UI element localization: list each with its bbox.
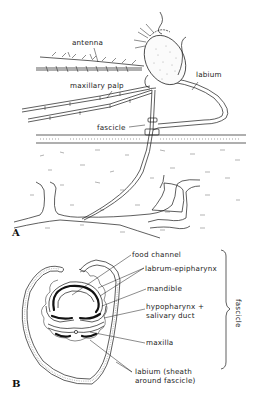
antenna [36,52,144,72]
panel-letter-a: A [11,227,20,238]
salivary-duct [74,330,77,333]
label-hypopharynx: hypopharynx + [146,302,204,311]
blood-vessels [14,175,200,238]
mandible [46,306,106,322]
label-labium-sheath: labium (sheath [135,367,192,376]
mosquito-head [134,12,194,92]
label-maxilla: maxilla [146,338,173,347]
tissue-texture [30,150,240,232]
mosquito-mouthparts-figure: antenna maxillary palp labium fascicle A [0,0,258,397]
panel-b: food channel labrum-epipharynx mandible … [12,250,243,389]
label-around-fascicle: around fascicle) [135,376,196,385]
panel-b-leaders [72,255,146,372]
label-salivary-duct: salivary duct [146,311,195,320]
maxilla [56,334,96,337]
label-labrum-epipharynx: labrum-epipharynx [145,264,218,273]
panel-a: antenna maxillary palp labium fascicle A [11,12,246,238]
label-fascicle: fascicle [97,123,126,132]
maxillary-palp [22,86,152,122]
label-labium: labium [196,70,222,79]
inner-membrane [41,271,107,341]
label-antenna: antenna [72,38,103,47]
panel-letter-b: B [12,378,20,389]
fascicle-bracket [221,250,230,369]
labrum-epipharynx [49,282,103,316]
label-maxillary-palp: maxillary palp [70,81,124,90]
label-fascicle-bracket: fascicle [234,299,243,328]
label-food-channel: food channel [132,250,181,259]
label-mandible: mandible [147,284,182,293]
labium-sheath [153,78,228,130]
skin-surface [36,135,246,143]
hypopharynx [48,322,104,334]
fascicle-stylet [82,90,159,220]
